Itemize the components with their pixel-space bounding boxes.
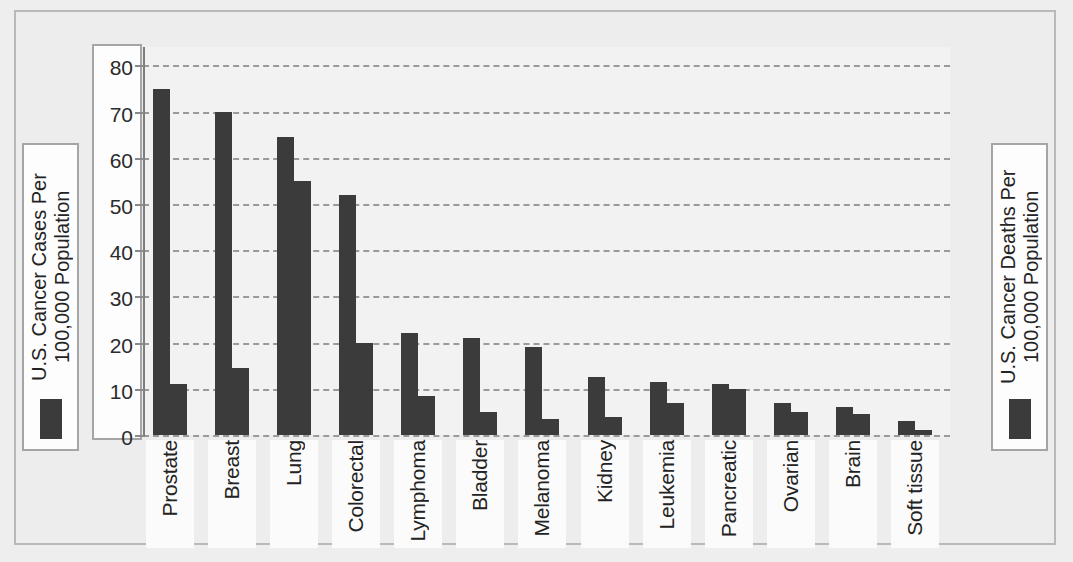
y-axis-tick-label: 80: [110, 57, 133, 78]
category-label-box: Pancreatic: [705, 440, 753, 548]
gridline: [143, 296, 950, 298]
category-label-box: Lymphoma: [394, 440, 442, 548]
bar-cases: [712, 384, 729, 435]
legend-deaths-swatch: [1009, 399, 1031, 439]
y-axis-tick: [135, 296, 144, 298]
category-label: Kidney: [593, 440, 617, 505]
category-label: Lung: [282, 440, 306, 488]
y-axis-tick-label: 50: [110, 196, 133, 217]
bar-cases: [215, 112, 232, 435]
legend-cases: U.S. Cancer Cases Per 100,000 Population: [22, 143, 79, 451]
category-label-box: Brain: [829, 440, 877, 548]
bar-cases: [525, 347, 542, 435]
category-label-box: Soft tissue: [891, 440, 939, 548]
category-label: Ovarian: [779, 440, 803, 514]
y-axis-tick-label: 40: [110, 242, 133, 263]
bar-deaths: [170, 384, 187, 435]
category-label-box: Lung: [270, 440, 318, 548]
gridline: [143, 65, 950, 67]
bar-deaths: [480, 412, 497, 435]
bar-deaths: [667, 403, 684, 435]
gridline: [143, 435, 950, 437]
gridline: [143, 158, 950, 160]
legend-deaths-label: U.S. Cancer Deaths Per 100,000 Populatio…: [997, 155, 1043, 399]
gridline: [143, 204, 950, 206]
category-label: Colorectal: [344, 440, 368, 535]
category-label: Brain: [841, 440, 865, 490]
bar-cases: [774, 403, 791, 435]
category-label: Melanoma: [530, 440, 554, 538]
bar-cases: [339, 195, 356, 435]
bar-deaths: [356, 343, 373, 435]
bar-deaths: [542, 419, 559, 435]
y-axis-tick-label: 30: [110, 288, 133, 309]
bar-deaths: [294, 181, 311, 435]
bar-cases: [650, 382, 667, 435]
gridline: [143, 343, 950, 345]
y-axis-tick-label: 70: [110, 103, 133, 124]
category-label: Pancreatic: [717, 440, 741, 539]
legend-deaths: U.S. Cancer Deaths Per 100,000 Populatio…: [991, 143, 1048, 451]
y-axis-line: [143, 47, 145, 437]
y-axis-tick: [135, 112, 144, 114]
y-axis-label-box: 01020304050607080: [92, 44, 142, 440]
gridline: [143, 250, 950, 252]
plot-area: [143, 47, 950, 435]
y-axis-tick-label: 60: [110, 149, 133, 170]
bar-deaths: [915, 430, 932, 435]
category-label: Bladder: [468, 440, 492, 513]
gridline: [143, 112, 950, 114]
bar-deaths: [605, 417, 622, 435]
bar-cases: [153, 89, 170, 435]
category-label-box: Kidney: [581, 440, 629, 548]
category-label: Soft tissue: [903, 440, 927, 538]
y-axis-tick-label: 10: [110, 380, 133, 401]
y-axis-tick: [135, 158, 144, 160]
bar-deaths: [729, 389, 746, 435]
bar-deaths: [791, 412, 808, 435]
y-axis-tick: [135, 204, 144, 206]
category-label-box: Breast: [208, 440, 256, 548]
chart-figure: 01020304050607080 U.S. Cancer Cases Per …: [0, 0, 1073, 562]
y-axis-tick: [135, 250, 144, 252]
y-axis-tick: [135, 343, 144, 345]
y-axis-tick-label: 0: [121, 427, 133, 448]
category-label-box: Colorectal: [332, 440, 380, 548]
y-axis-tick: [135, 435, 144, 437]
category-label: Leukemia: [655, 440, 679, 531]
bar-cases: [898, 421, 915, 435]
bar-cases: [401, 333, 418, 435]
bar-deaths: [418, 396, 435, 435]
bar-deaths: [232, 368, 249, 435]
y-axis-tick: [135, 389, 144, 391]
category-label: Breast: [220, 440, 244, 502]
y-axis-tick-label: 20: [110, 334, 133, 355]
legend-cases-label: U.S. Cancer Cases Per 100,000 Population: [28, 155, 74, 399]
legend-cases-swatch: [40, 399, 62, 439]
category-label: Prostate: [158, 440, 182, 519]
category-label-box: Ovarian: [767, 440, 815, 548]
bar-cases: [277, 137, 294, 435]
y-axis-tick: [135, 65, 144, 67]
bar-cases: [588, 377, 605, 435]
bar-cases: [836, 407, 853, 435]
category-label-box: Leukemia: [643, 440, 691, 548]
category-label-box: Prostate: [146, 440, 194, 548]
category-label-box: Bladder: [456, 440, 504, 548]
gridline: [143, 389, 950, 391]
category-label-box: Melanoma: [518, 440, 566, 548]
bar-cases: [463, 338, 480, 435]
bar-deaths: [853, 414, 870, 435]
category-label: Lymphoma: [406, 440, 430, 544]
